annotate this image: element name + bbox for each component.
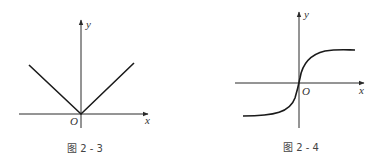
x-axis-label: x bbox=[144, 114, 150, 126]
figure-2-3: y x O 图 2 - 3 bbox=[19, 18, 150, 154]
origin-label: O bbox=[302, 85, 310, 97]
diagram-canvas: y x O 图 2 - 3 y x O 图 2 - 4 bbox=[0, 0, 380, 163]
origin-label: O bbox=[70, 115, 78, 127]
figure-caption: 图 2 - 4 bbox=[283, 142, 319, 153]
figure-2-4: y x O 图 2 - 4 bbox=[235, 8, 364, 153]
figure-caption: 图 2 - 3 bbox=[67, 143, 103, 154]
y-axis-label: y bbox=[85, 18, 91, 30]
x-axis-label: x bbox=[358, 84, 364, 96]
y-axis-label: y bbox=[303, 8, 309, 20]
